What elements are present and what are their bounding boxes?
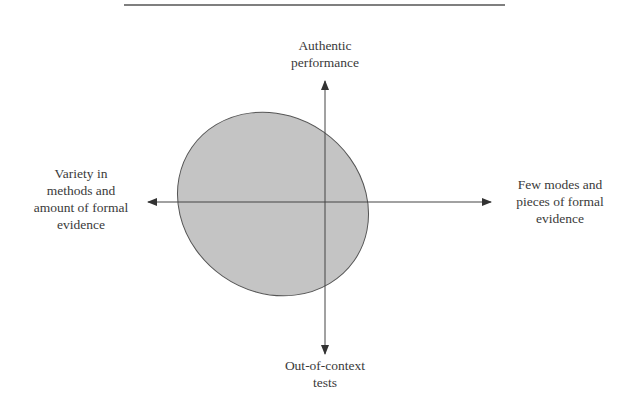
label-variety-methods: Variety in methods and amount of formal … [20,165,142,233]
label-line: Authentic [255,37,395,54]
assessment-ellipse [141,75,404,333]
label-line: performance [255,54,395,71]
label-line: Out-of-context [255,357,395,374]
label-line: Few modes and [500,176,620,193]
label-line: methods and [20,182,142,199]
label-line: evidence [500,210,620,227]
label-out-of-context-tests: Out-of-context tests [255,357,395,391]
label-few-modes: Few modes and pieces of formal evidence [500,176,620,227]
label-line: Variety in [20,165,142,182]
label-line: pieces of formal [500,193,620,210]
label-line: tests [255,374,395,391]
label-authentic-performance: Authentic performance [255,37,395,71]
label-line: amount of formal [20,199,142,216]
label-line: evidence [20,216,142,233]
